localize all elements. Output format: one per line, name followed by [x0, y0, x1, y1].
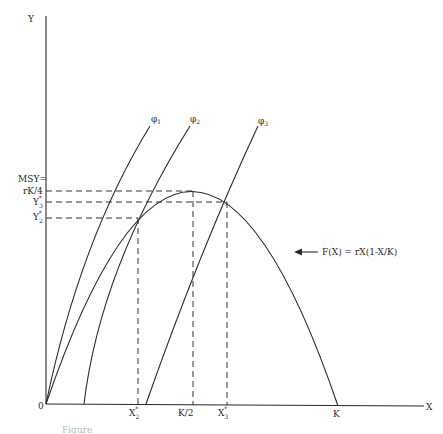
phi2-curve: [84, 126, 190, 404]
phi2-label: φ2: [190, 114, 200, 125]
x-axis-label: X: [426, 402, 433, 412]
fx-annotation: F(X) = rX(1-X/K): [322, 247, 397, 257]
phi1-label: φ1: [151, 114, 161, 125]
phi3-curve: [146, 126, 258, 404]
figure-caption: Figure: [62, 425, 92, 434]
msy-label: MSY=: [18, 174, 47, 184]
y2-label: Y2*: [32, 209, 43, 224]
y-axis-label: Y: [27, 14, 35, 24]
k-label: K: [333, 409, 340, 419]
growth-curve-fx: [46, 191, 338, 406]
x-axis: [46, 404, 424, 406]
khalf-label: K/2: [178, 408, 193, 418]
x2-label: X2*: [129, 405, 139, 420]
fx-arrow-icon: [294, 249, 302, 256]
origin-label: 0: [38, 401, 44, 411]
phi3-label: φ3: [258, 116, 268, 127]
chart-figure: Y X 0 φ1 φ2 φ3 MSY= rK/4 Y3* Y2* X2* K/2…: [0, 0, 443, 434]
y3-label: Y3*: [32, 194, 43, 209]
x3-label: X3*: [218, 405, 228, 420]
